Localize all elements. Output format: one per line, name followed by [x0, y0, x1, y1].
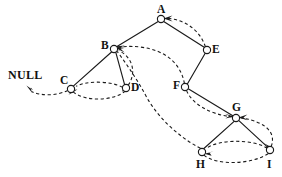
tree-edge-g-i — [239, 120, 268, 147]
node-circle-d[interactable] — [122, 84, 129, 91]
node-label-h: H — [196, 159, 205, 171]
tree-edge-e-f — [187, 53, 205, 84]
thread-edge-e-a — [166, 18, 205, 47]
node-circle-a[interactable] — [157, 15, 164, 22]
thread-edge-i-h — [207, 141, 267, 148]
node-label-e: E — [212, 44, 220, 56]
node-label-a: A — [157, 4, 165, 16]
node-circle-g[interactable] — [232, 114, 239, 121]
node-circle-group — [67, 15, 273, 155]
thread-edge-i-g — [241, 118, 273, 147]
node-label-c: C — [60, 75, 68, 87]
tree-edge-b-d — [116, 52, 125, 84]
tree-edge-a-b — [117, 21, 159, 46]
node-label-f: F — [173, 80, 180, 92]
node-circle-b[interactable] — [110, 45, 117, 52]
node-circle-e[interactable] — [203, 46, 210, 53]
thread-edge-h-b — [117, 51, 205, 150]
node-circle-h[interactable] — [198, 148, 205, 155]
thread-edge-f-g — [187, 91, 232, 117]
threaded-binary-tree-figure: NULL A B C D E F G H I — [0, 0, 282, 177]
node-label-i: I — [267, 159, 272, 171]
tree-edge-b-c — [73, 52, 112, 86]
node-label-g: G — [232, 102, 241, 114]
node-circle-i[interactable] — [266, 146, 273, 153]
thread-edge-c-null — [32, 90, 68, 94]
node-circle-f[interactable] — [181, 83, 188, 90]
node-label-d: D — [131, 82, 139, 94]
node-circle-c[interactable] — [67, 85, 74, 92]
tree-canvas — [0, 0, 282, 177]
null-label: NULL — [8, 69, 43, 81]
node-label-b: B — [101, 40, 109, 52]
thread-edge-h-i — [204, 153, 269, 162]
thread-edge-d-c — [76, 82, 122, 87]
thread-edge-c-d — [73, 92, 124, 99]
tree-edge-g-h — [204, 121, 235, 149]
